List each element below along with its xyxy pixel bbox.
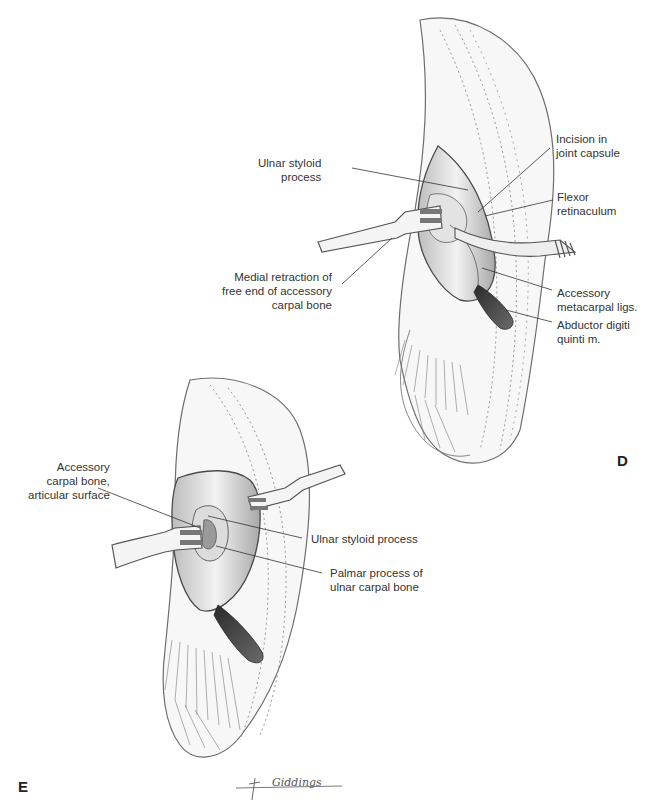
label-line: Flexor (557, 190, 616, 204)
label-line: free end of accessory (222, 284, 332, 298)
label-line: Incision in (556, 132, 620, 146)
label-accessory-metacarpal-ligs: Accessory metacarpal ligs. (557, 286, 638, 314)
artist-signature: Giddings (272, 776, 322, 789)
label-line: joint capsule (556, 146, 620, 160)
label-accessory-carpal-articular: Accessory carpal bone, articular surface (28, 460, 110, 502)
label-line: ulnar carpal bone (330, 580, 423, 594)
label-medial-retraction: Medial retraction of free end of accesso… (222, 270, 332, 312)
label-line: Accessory (28, 460, 110, 474)
label-line: process (258, 170, 321, 184)
panel-d-drawing (318, 18, 575, 463)
label-line: Ulnar styloid process (311, 532, 418, 546)
panel-letter-d: D (617, 452, 628, 469)
label-line: carpal bone, (28, 474, 110, 488)
label-palmar-process: Palmar process of ulnar carpal bone (330, 566, 423, 594)
label-abductor-digiti-quinti: Abductor digiti quinti m. (557, 318, 630, 346)
label-incision-joint-capsule: Incision in joint capsule (556, 132, 620, 160)
label-line: carpal bone (222, 298, 332, 312)
label-ulnar-styloid-e: Ulnar styloid process (311, 532, 418, 546)
label-line: Palmar process of (330, 566, 423, 580)
label-line: quinti m. (557, 332, 630, 346)
label-line: metacarpal ligs. (557, 300, 638, 314)
label-line: retinaculum (557, 204, 616, 218)
label-line: Abductor digiti (557, 318, 630, 332)
label-line: Accessory (557, 286, 638, 300)
label-line: articular surface (28, 488, 110, 502)
label-ulnar-styloid-d: Ulnar styloid process (258, 156, 321, 184)
label-line: Ulnar styloid (258, 156, 321, 170)
label-flexor-retinaculum: Flexor retinaculum (557, 190, 616, 218)
surgical-illustration (0, 0, 652, 812)
panel-e-drawing (98, 378, 345, 800)
label-line: Medial retraction of (222, 270, 332, 284)
panel-letter-e: E (18, 778, 28, 795)
